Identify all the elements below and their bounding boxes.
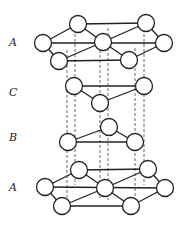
layer-a-bottom xyxy=(37,161,174,215)
layer-graphic xyxy=(0,0,192,230)
layer-c xyxy=(66,78,153,112)
layer-label-b: B xyxy=(9,131,17,144)
layer-b xyxy=(60,119,144,151)
layer-label-a-top: A xyxy=(9,36,17,49)
layer-a-top xyxy=(35,15,173,70)
layer-label-c: C xyxy=(9,86,17,99)
layer-label-a-bottom: A xyxy=(9,181,17,194)
stacking-diagram: A C B A xyxy=(0,0,192,230)
